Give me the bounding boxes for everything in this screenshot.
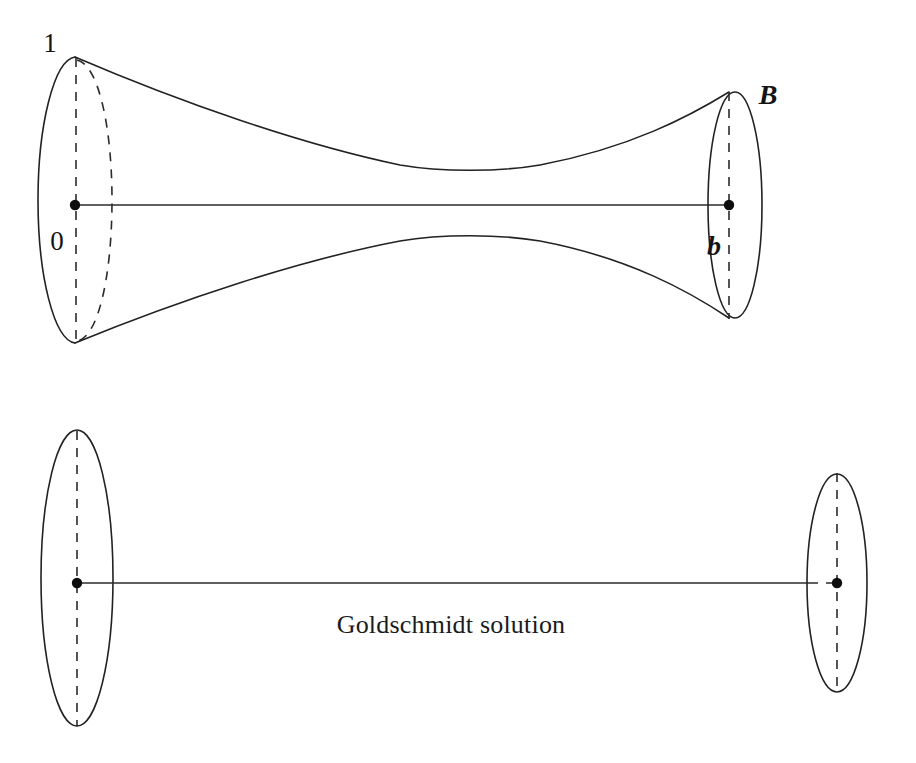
label-right-ring-center: b [707, 230, 721, 261]
catenoid-panel: 1 0 B b [38, 28, 777, 343]
figure-canvas: 1 0 B b Goldschmidt solution [0, 0, 916, 763]
goldschmidt-panel: Goldschmidt solution [41, 430, 867, 726]
catenoid-upper-profile [75, 57, 729, 170]
label-right-ring-top: B [758, 79, 778, 110]
figure-root: 1 0 B b Goldschmidt solution [0, 0, 916, 763]
catenoid-lower-profile [75, 236, 729, 343]
left-ring-center-dot [70, 200, 80, 210]
goldschmidt-left-center-dot [72, 578, 82, 588]
label-left-ring-center: 0 [50, 226, 64, 256]
label-left-ring-top: 1 [43, 28, 57, 58]
right-ring-center-dot [724, 200, 734, 210]
goldschmidt-right-center-dot [832, 578, 842, 588]
left-ring-front-arc [38, 57, 75, 343]
left-ring-back-arc [77, 60, 112, 341]
goldschmidt-caption: Goldschmidt solution [337, 610, 566, 639]
